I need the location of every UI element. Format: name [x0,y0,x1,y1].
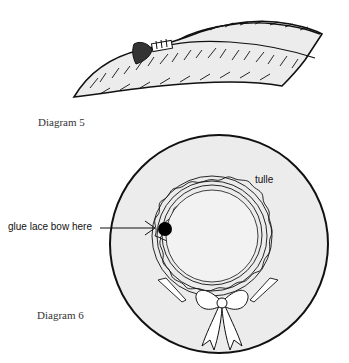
wreath-leaves [158,278,278,302]
glue-arrow [100,221,155,235]
outer-plate [110,135,328,353]
diagram-5-caption: Diagram 5 [38,116,85,128]
tulle-label: tulle [255,174,273,185]
glue-point-dot [158,222,172,236]
wreath-opening [166,190,258,282]
ribbon-bow [196,290,248,350]
glue-point-label: glue lace bow here [8,221,92,232]
tulle-wreath [152,176,272,296]
diagram-6-caption: Diagram 6 [37,309,84,321]
diagram-5-braid-illustration [0,0,349,130]
